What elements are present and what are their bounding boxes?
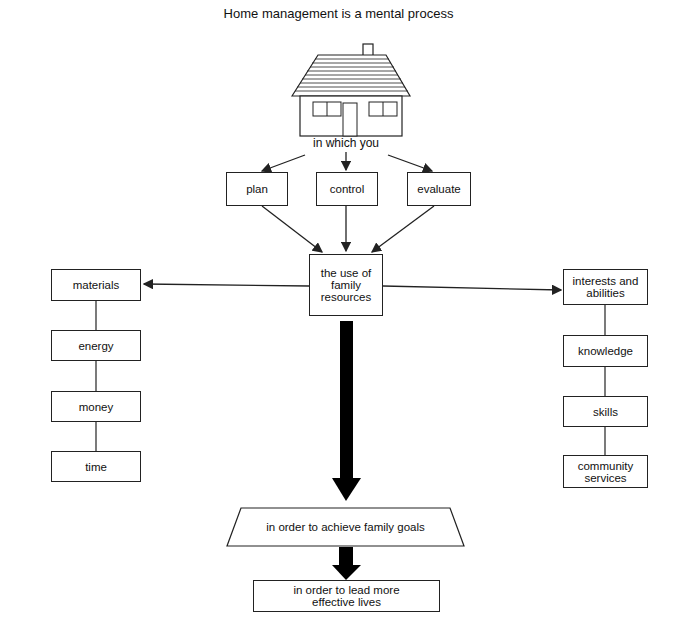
action-evaluate: evaluate [407,172,471,206]
outcome-box: in order to lead more effective lives [253,580,440,612]
resource-time: time [51,451,141,482]
resource-knowledge: knowledge [563,335,648,367]
resource-money: money [51,391,141,422]
resource-community-services: community services [563,455,648,488]
goal-text: in order to achieve family goals [227,508,464,546]
resource-materials: materials [51,269,141,301]
resource-skills: skills [563,396,648,427]
house-icon [292,44,410,136]
action-control: control [316,172,378,206]
diagram-title: Home management is a mental process [0,6,677,21]
thick-arrow-down-1 [332,321,361,501]
resource-interests-abilities: interests and abilities [563,269,648,305]
house-caption: in which you [290,136,402,150]
resource-energy: energy [51,330,141,361]
center-family-resources: the use of family resources [309,254,383,316]
thick-arrow-down-2 [332,547,361,580]
action-plan: plan [226,172,288,206]
